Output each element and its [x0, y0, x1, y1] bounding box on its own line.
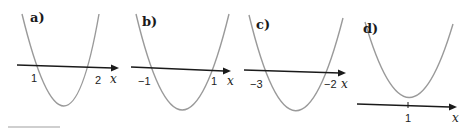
- panel-a-axis-arrow: [111, 65, 119, 72]
- panel-a-parabola: [22, 14, 99, 106]
- panel-b-label: b): [142, 14, 157, 29]
- panel-d-axis-arrow: [449, 104, 457, 111]
- panel-d-label: d): [363, 21, 378, 36]
- panel-d: d) 1 x: [357, 21, 459, 125]
- panel-c-root-2: −2: [324, 78, 337, 90]
- panel-d-x-label: x: [452, 111, 459, 125]
- panel-d-x-axis: [357, 104, 450, 107]
- panel-c-x-axis: [244, 70, 340, 73]
- parabola-figure: a) 1 2 x b) −1 1 x c) −3 −2 x d) 1 x: [0, 0, 475, 129]
- panel-a-x-axis: [17, 65, 113, 68]
- panel-a-root-1: 1: [31, 72, 37, 84]
- panel-c-label: c): [256, 17, 270, 32]
- panel-a-root-2: 2: [95, 74, 101, 86]
- panel-c-x-label: x: [341, 77, 348, 91]
- panel-a: a) 1 2 x: [17, 10, 119, 106]
- panel-a-label: a): [30, 10, 45, 25]
- panel-b: b) −1 1 x: [131, 14, 234, 110]
- panel-b-root-2: 1: [211, 75, 217, 87]
- panel-d-root-1: 1: [405, 112, 411, 124]
- panel-a-x-label: x: [110, 72, 117, 86]
- panel-c: c) −3 −2 x: [244, 15, 348, 111]
- panel-c-axis-arrow: [338, 70, 346, 77]
- bottom-divider: [8, 126, 60, 128]
- panel-b-x-axis: [131, 67, 224, 71]
- panel-b-x-label: x: [227, 74, 234, 88]
- panel-c-root-1: −3: [250, 78, 263, 90]
- panel-b-root-1: −1: [138, 75, 151, 87]
